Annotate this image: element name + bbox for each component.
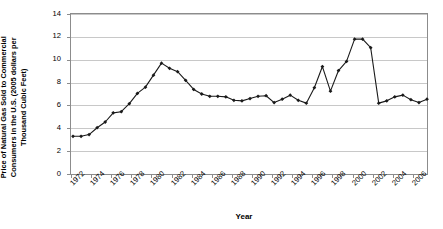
data-point-marker — [232, 98, 236, 102]
data-point-marker — [329, 89, 333, 93]
y-tick-label: 10 — [43, 55, 61, 63]
y-tick-label: 4 — [43, 124, 61, 132]
data-point-marker — [216, 94, 220, 98]
data-point-marker — [71, 134, 75, 138]
data-point-marker — [224, 95, 228, 99]
y-tick-label: 6 — [43, 101, 61, 109]
data-point-marker — [425, 97, 429, 101]
data-point-marker — [248, 97, 252, 101]
y-tick-label: 8 — [43, 78, 61, 86]
data-point-marker — [393, 95, 397, 99]
data-point-marker — [385, 99, 389, 103]
y-tick-label: 2 — [43, 147, 61, 155]
data-point-marker — [312, 86, 316, 90]
data-point-marker — [256, 94, 260, 98]
data-point-marker — [321, 65, 325, 69]
y-tick-label: 0 — [43, 170, 61, 178]
data-point-marker — [79, 134, 83, 138]
x-axis-title: Year — [60, 212, 428, 221]
data-point-marker — [240, 99, 244, 103]
chart-plot-area — [0, 0, 443, 229]
y-tick-label: 12 — [43, 32, 61, 40]
data-markers-series-1 — [71, 37, 429, 138]
data-line-series-1 — [73, 39, 427, 136]
data-point-marker — [304, 101, 308, 105]
data-point-marker — [377, 101, 381, 105]
gridlines — [71, 15, 428, 152]
chart-figure: Price of Natural Gas Sold to Commercial … — [0, 0, 443, 229]
y-tick-label: 14 — [43, 10, 61, 18]
data-point-marker — [208, 94, 212, 98]
data-point-marker — [417, 101, 421, 105]
data-point-marker — [280, 97, 284, 101]
